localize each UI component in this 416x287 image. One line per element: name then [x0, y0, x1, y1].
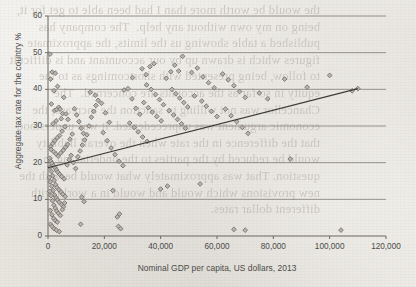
data-point	[140, 66, 145, 71]
data-point	[243, 228, 248, 233]
data-point	[154, 114, 159, 119]
data-point	[130, 97, 135, 102]
data-point	[226, 77, 231, 82]
data-point	[103, 110, 108, 115]
data-point	[78, 222, 83, 227]
data-point	[79, 195, 84, 200]
data-point	[134, 106, 139, 111]
data-point	[149, 87, 154, 92]
data-point	[152, 61, 157, 66]
data-point	[105, 138, 110, 143]
data-point	[189, 70, 194, 75]
data-point	[204, 104, 209, 109]
data-point	[175, 117, 180, 122]
data-point	[180, 54, 185, 59]
data-point	[246, 131, 251, 136]
data-point	[220, 72, 225, 77]
data-point	[157, 97, 162, 102]
data-point	[67, 157, 72, 162]
data-point	[237, 89, 242, 94]
data-point	[159, 119, 164, 124]
data-point	[60, 129, 65, 134]
x-tick-label: 20,000	[78, 242, 130, 251]
data-point	[181, 100, 186, 105]
data-point	[82, 138, 87, 143]
data-point	[68, 137, 73, 142]
data-point	[91, 109, 96, 114]
data-points	[47, 52, 360, 234]
data-point	[161, 102, 166, 107]
data-point	[49, 102, 54, 107]
data-point	[74, 113, 79, 118]
x-tick-label: 40,000	[135, 242, 187, 251]
data-point	[55, 84, 60, 89]
data-point	[130, 75, 135, 80]
x-tick-label: 120,000	[360, 242, 412, 251]
data-point	[243, 95, 248, 100]
data-point	[206, 80, 211, 85]
data-point	[96, 98, 101, 103]
data-point	[79, 126, 84, 131]
y-tick-label: 50	[16, 48, 42, 57]
data-point	[165, 184, 170, 189]
data-point	[232, 227, 237, 232]
data-point	[144, 83, 149, 88]
data-point	[94, 103, 99, 108]
data-point	[148, 64, 153, 69]
data-point	[282, 77, 287, 82]
data-point	[223, 107, 228, 112]
data-point	[170, 87, 175, 92]
data-point	[82, 199, 87, 204]
data-point	[136, 130, 141, 135]
data-point	[185, 105, 190, 110]
data-point	[69, 153, 74, 158]
data-point	[150, 110, 155, 115]
data-point	[305, 85, 310, 90]
data-point	[64, 112, 69, 117]
data-point	[88, 90, 93, 95]
data-point	[199, 99, 204, 104]
data-point	[101, 130, 106, 135]
data-point	[174, 91, 179, 96]
data-point	[141, 100, 146, 105]
data-point	[61, 95, 66, 100]
data-point	[110, 188, 115, 193]
data-point	[229, 113, 234, 118]
data-point	[76, 154, 81, 159]
data-point	[209, 109, 214, 114]
x-tick-label: 80,000	[247, 242, 299, 251]
x-tick-label: 60,000	[191, 242, 243, 251]
data-point	[172, 63, 177, 68]
data-point	[87, 124, 92, 129]
data-point	[215, 114, 220, 119]
y-tick-label: 10	[16, 194, 42, 203]
data-point	[107, 120, 112, 125]
x-tick-label: 0	[22, 242, 74, 251]
gridlines	[48, 16, 386, 199]
y-tick-label: 0	[16, 231, 42, 240]
data-point	[121, 163, 126, 168]
y-tick-label: 60	[16, 11, 42, 20]
data-point	[80, 143, 85, 148]
data-point	[49, 169, 54, 174]
data-point	[144, 72, 149, 77]
data-point	[72, 106, 77, 111]
data-point	[66, 117, 71, 122]
data-point	[232, 83, 237, 88]
y-tick-label: 20	[16, 158, 42, 167]
data-point	[93, 93, 98, 98]
data-point	[127, 121, 132, 126]
data-point	[179, 121, 184, 126]
data-point	[158, 187, 163, 192]
data-point	[192, 94, 197, 99]
data-point	[153, 92, 158, 97]
data-point	[265, 97, 270, 102]
data-point	[257, 91, 262, 96]
data-point	[195, 66, 200, 71]
data-point	[171, 113, 176, 118]
x-axis-title: Nominal GDP per capita, US dollars, 2013	[48, 263, 386, 273]
data-point	[288, 157, 293, 162]
data-point	[70, 132, 75, 137]
data-point	[183, 126, 188, 131]
y-tick-label: 30	[16, 121, 42, 130]
